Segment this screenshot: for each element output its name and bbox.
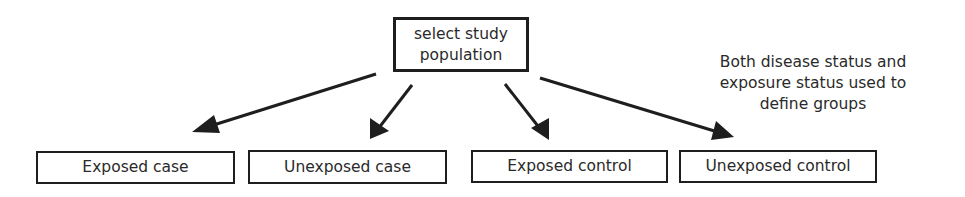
study-population-line1: select study (414, 24, 508, 45)
note-line2: exposure status used to (702, 73, 924, 94)
unexposed-case-label: Unexposed case (284, 157, 411, 178)
unexposed-case-box: Unexposed case (248, 150, 447, 184)
note-line1: Both disease status and (702, 52, 924, 73)
arrow-to-unexposed-case (370, 85, 412, 139)
arrow-to-exposed-case (192, 74, 376, 133)
exposed-control-label: Exposed control (507, 156, 631, 177)
exposed-case-label: Exposed case (82, 157, 188, 178)
study-population-line2: population (414, 45, 508, 66)
study-population-box: select study population (393, 17, 529, 72)
arrow-to-exposed-control (505, 84, 549, 140)
note-line3: define groups (702, 94, 924, 115)
unexposed-control-label: Unexposed control (705, 156, 850, 177)
exposed-case-box: Exposed case (36, 151, 235, 184)
grouping-note: Both disease status and exposure status … (702, 52, 924, 115)
exposed-control-box: Exposed control (471, 150, 668, 183)
unexposed-control-box: Unexposed control (679, 150, 877, 183)
